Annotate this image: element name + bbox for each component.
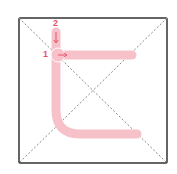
stroke-order-diagram xyxy=(0,0,177,174)
stroke-number-1: 1 xyxy=(43,50,48,59)
stroke-number-2: 2 xyxy=(53,19,58,28)
stroke-2 xyxy=(56,32,137,134)
